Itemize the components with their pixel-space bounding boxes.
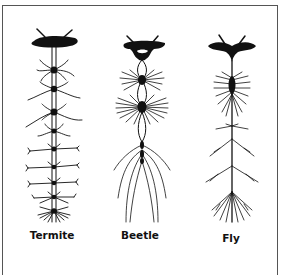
- fly-brain: [208, 42, 256, 62]
- fly-nervous-system: [206, 35, 258, 222]
- beetle-brain: [123, 41, 165, 61]
- beetle-nervous-system: [114, 36, 170, 222]
- termite-label: Termite: [30, 229, 75, 241]
- termite-nervous-system: [26, 29, 82, 222]
- beetle-label: Beetle: [121, 229, 159, 241]
- termite-brain: [32, 36, 78, 47]
- termite-antenna: [64, 30, 72, 37]
- fly-label: Fly: [222, 232, 240, 244]
- termite-antenna: [37, 29, 45, 37]
